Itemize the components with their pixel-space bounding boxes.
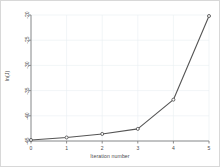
y-tick-label: -25 <box>24 34 30 46</box>
x-tick-label: 1 <box>65 145 68 151</box>
x-axis-label: Iteration number <box>1 153 219 159</box>
y-tick-label: -45 <box>24 135 30 147</box>
x-tick-label: 0 <box>30 145 33 151</box>
y-tick-label: -40 <box>24 110 30 122</box>
y-tick-label: -35 <box>24 85 30 97</box>
chart-figure: 012345 -45-40-35-30-25-20 Iteration numb… <box>0 0 220 167</box>
y-tick-label: -20 <box>24 9 30 21</box>
x-tick-label: 3 <box>136 145 139 151</box>
y-axis-label: ln(J) <box>4 58 10 94</box>
x-tick-label: 2 <box>101 145 104 151</box>
x-tick-label: 4 <box>172 145 175 151</box>
line-chart-plot <box>1 1 220 167</box>
y-tick-label: -30 <box>24 59 30 71</box>
x-tick-label: 5 <box>208 145 211 151</box>
